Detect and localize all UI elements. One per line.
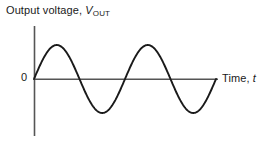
waveform-figure: Output voltage, VOUT 0 Time, t xyxy=(0,0,269,142)
y-axis-label: Output voltage, VOUT xyxy=(6,4,110,18)
waveform-plot xyxy=(0,0,269,142)
x-axis-label: Time, t xyxy=(222,72,256,85)
y-axis-label-subscript: OUT xyxy=(93,9,111,18)
y-axis-label-text: Output voltage, xyxy=(6,4,82,16)
x-axis-label-symbol: t xyxy=(250,72,256,84)
x-axis-label-text: Time, xyxy=(222,72,250,84)
plot-background xyxy=(0,0,269,142)
y-axis-label-symbol: V xyxy=(82,4,93,16)
origin-tick-label: 0 xyxy=(21,71,27,84)
